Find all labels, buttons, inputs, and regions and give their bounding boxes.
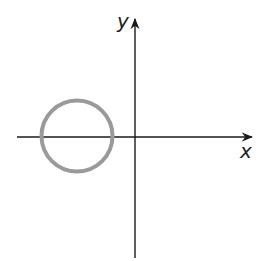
coordinate-diagram: y x [0,0,266,261]
x-axis-label: x [239,139,252,163]
y-axis-label: y [116,9,130,33]
circle-shape [42,101,113,172]
